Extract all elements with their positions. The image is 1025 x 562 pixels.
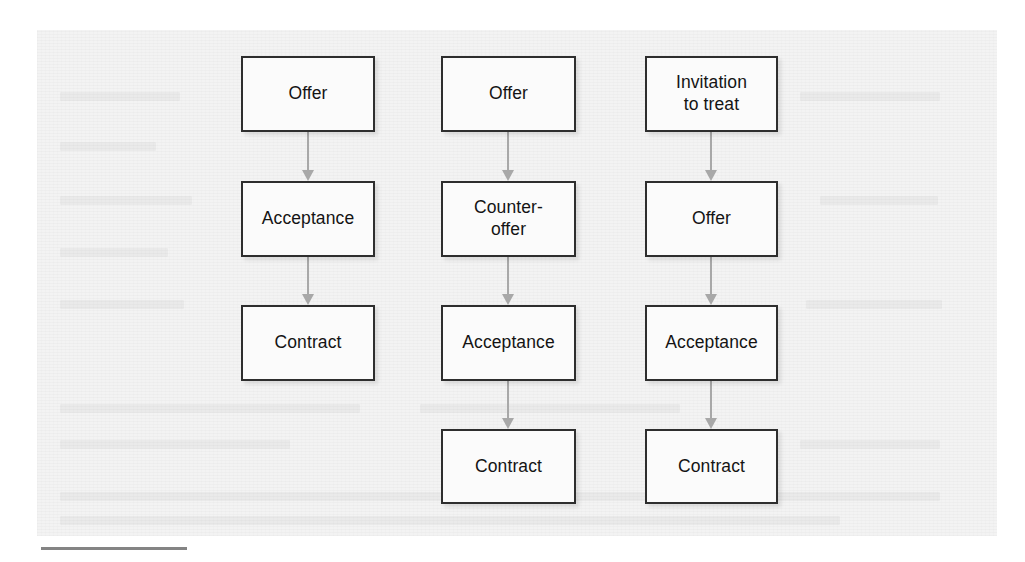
node-label: Counter- offer: [470, 197, 547, 241]
node-c3-invitation-to-treat[interactable]: Invitation to treat: [645, 56, 778, 132]
arrow-shaft: [710, 132, 712, 170]
node-c1-acceptance[interactable]: Acceptance: [241, 181, 375, 257]
node-label: Acceptance: [661, 332, 761, 354]
arrow-c3-offer-to-acceptance: [699, 257, 723, 305]
arrow-c2-acceptance-to-contract: [496, 381, 520, 429]
arrow-head: [502, 170, 514, 181]
scanned-page: Offer Acceptance Contract Offer Counter-…: [0, 0, 1025, 562]
arrow-head: [705, 294, 717, 305]
node-label: Acceptance: [458, 332, 558, 354]
node-c2-counter-offer[interactable]: Counter- offer: [441, 181, 576, 257]
node-label: Offer: [284, 83, 331, 105]
node-c3-offer[interactable]: Offer: [645, 181, 778, 257]
arrow-head: [705, 170, 717, 181]
node-c2-offer[interactable]: Offer: [441, 56, 576, 132]
arrow-head: [302, 294, 314, 305]
contract-formation-diagram: Offer Acceptance Contract Offer Counter-…: [0, 0, 1025, 562]
node-label: Contract: [271, 332, 346, 354]
arrow-shaft: [507, 257, 509, 294]
node-c2-acceptance[interactable]: Acceptance: [441, 305, 576, 381]
node-c1-contract[interactable]: Contract: [241, 305, 375, 381]
caption-rule: [41, 547, 187, 550]
node-c1-offer[interactable]: Offer: [241, 56, 375, 132]
arrow-c1-offer-to-acceptance: [296, 132, 320, 181]
arrow-head: [705, 418, 717, 429]
arrow-head: [302, 170, 314, 181]
node-label: Contract: [674, 456, 749, 478]
arrow-shaft: [710, 257, 712, 294]
arrow-shaft: [307, 132, 309, 170]
node-label: Offer: [485, 83, 532, 105]
arrow-head: [502, 418, 514, 429]
arrow-head: [502, 294, 514, 305]
arrow-shaft: [710, 381, 712, 418]
node-c3-contract[interactable]: Contract: [645, 429, 778, 504]
node-c2-contract[interactable]: Contract: [441, 429, 576, 504]
node-label: Invitation to treat: [672, 72, 751, 116]
node-c3-acceptance[interactable]: Acceptance: [645, 305, 778, 381]
arrow-c3-invitation-to-offer: [699, 132, 723, 181]
node-label: Contract: [471, 456, 546, 478]
node-label: Acceptance: [258, 208, 358, 230]
arrow-c1-acceptance-to-contract: [296, 257, 320, 305]
arrow-shaft: [507, 381, 509, 418]
arrow-c2-offer-to-counter-offer: [496, 132, 520, 181]
node-label: Offer: [688, 208, 735, 230]
arrow-c2-counter-offer-to-acceptance: [496, 257, 520, 305]
arrow-c3-acceptance-to-contract: [699, 381, 723, 429]
arrow-shaft: [307, 257, 309, 294]
arrow-shaft: [507, 132, 509, 170]
